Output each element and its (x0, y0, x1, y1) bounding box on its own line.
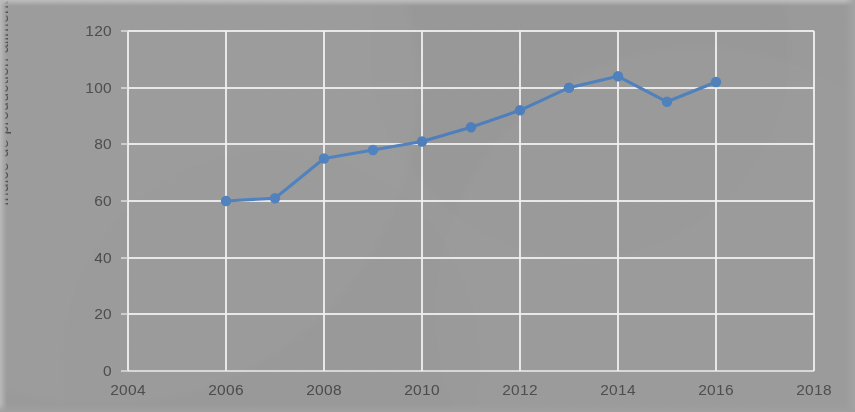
data-point-2016 (711, 77, 721, 87)
data-point-2011 (466, 122, 476, 132)
data-point-2009 (368, 145, 378, 155)
data-point-2015 (662, 97, 672, 107)
data-point-2008 (319, 153, 329, 163)
series-polyline (226, 76, 716, 201)
data-point-2014 (613, 71, 623, 81)
data-point-2012 (515, 105, 525, 115)
chart-figure: 020406080100120 200420062008201020122014… (0, 0, 855, 412)
data-point-2013 (564, 83, 574, 93)
data-series-line (0, 0, 855, 412)
scan-edge-bottom (0, 404, 855, 412)
scan-edge-top (0, 0, 855, 6)
data-point-2010 (417, 136, 427, 146)
scan-edge-left (0, 0, 7, 412)
data-point-2007 (270, 193, 280, 203)
data-point-2006 (221, 196, 231, 206)
scan-edge-right (845, 0, 855, 412)
